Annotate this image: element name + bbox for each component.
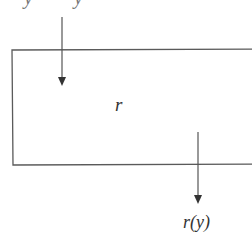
diagram-canvas: y y r r(y) — [0, 0, 252, 240]
output-arrow-head-icon — [194, 195, 202, 204]
output-label: r(y) — [183, 212, 210, 233]
block-label: r — [115, 94, 122, 116]
input-arrow-head-icon — [58, 77, 66, 86]
diagram-svg — [0, 0, 252, 240]
block-rectangle — [12, 49, 252, 165]
top-label-2: y — [74, 0, 83, 9]
top-label-1: y — [24, 0, 33, 9]
